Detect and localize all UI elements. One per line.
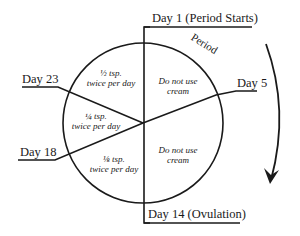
segment-left-middle-line2: twice per day — [72, 121, 121, 131]
segment-left-bottom-line2: twice per day — [90, 164, 139, 174]
segment-right-bottom-line1: Do not use — [158, 145, 198, 155]
cycle-diagram: Day 1 (Period Starts) Day 5 Day 14 (Ovul… — [0, 0, 300, 236]
segment-left-top-line1: ½ tsp. — [100, 68, 122, 78]
day14-label: Day 14 (Ovulation) — [148, 207, 246, 221]
segment-right-top-line2: cream — [167, 86, 190, 96]
day1-label: Day 1 (Period Starts) — [152, 11, 258, 25]
arrow-head-icon — [264, 168, 279, 184]
period-label: Period — [189, 31, 220, 57]
segment-left-middle-line1: ¼ tsp. — [85, 111, 107, 121]
segment-left-top-line2: twice per day — [87, 78, 136, 88]
day5-line — [143, 91, 257, 123]
segment-right-bottom-line2: cream — [167, 155, 190, 165]
day23-label: Day 23 — [22, 72, 58, 86]
day23-line — [22, 87, 143, 123]
day5-label: Day 5 — [237, 76, 267, 90]
segment-left-bottom-line1: ⅛ tsp. — [103, 154, 125, 164]
day18-label: Day 18 — [20, 145, 56, 159]
day1-day14-divider — [144, 27, 150, 223]
segment-right-top-line1: Do not use — [158, 76, 198, 86]
direction-arrow — [266, 44, 279, 180]
